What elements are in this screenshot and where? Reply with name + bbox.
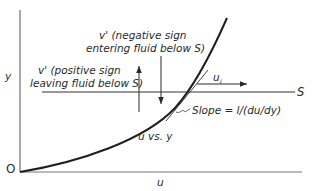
x-axis-label: u [157,176,164,188]
origin-label: O [6,163,15,175]
positive-v-label-line2: leaving fluid below S) [30,77,143,89]
slope-leader-line [176,109,190,112]
positive-v-label-line1: v' (positive sign [38,64,121,76]
velocity-arrow-label: ui [213,71,222,88]
reference-line-label: S [297,86,304,98]
velocity-symbol: u [213,71,220,83]
curve-label: u vs. y [138,130,173,142]
velocity-subscript: i [220,78,222,86]
y-axis-label: y [5,70,11,82]
slope-label: Slope = l/(du/dy) [192,104,281,116]
negative-v-label-line2: entering fluid below S) [86,42,205,54]
negative-v-label-line1: v' (negative sign [99,29,187,41]
